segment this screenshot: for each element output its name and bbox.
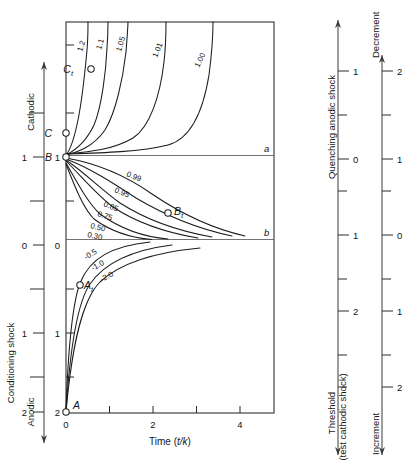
contour-curves-lower — [66, 242, 200, 412]
right1-tick-label-neg2: 2 — [353, 306, 358, 317]
contour-label--0.5: -0.5 — [82, 247, 99, 262]
increment-label: Increment — [370, 412, 381, 455]
contour-label-0.95: 0.95 — [113, 186, 131, 200]
reference-line-labels: a b — [264, 143, 269, 238]
right2-tick-label-2: 2 — [397, 66, 402, 77]
marker-point-Ct — [88, 66, 94, 72]
right2-tick-label-neg1: 1 — [397, 306, 402, 317]
contour-label--1.0: -1.0 — [90, 258, 107, 273]
contour-label-1.2: 1.2 — [75, 40, 87, 53]
marker-point-B — [63, 154, 69, 160]
x-axis-ticks — [66, 406, 240, 413]
reference-label-a: a — [264, 143, 269, 154]
y-inner-tick-label-0: 0 — [55, 240, 60, 251]
contour-label-1.01: 1.01 — [151, 41, 165, 58]
conditioning-tick-label-neg1: 1 — [22, 328, 27, 339]
point-label-C: C — [44, 127, 52, 139]
conditioning-shock-axis-title: Conditioning shock — [5, 323, 16, 404]
decrement-increment-axis: 2 1 0 1 2 — [379, 55, 402, 455]
threshold-label-line1: Threshold — [326, 392, 337, 434]
right2-tick-label-1: 1 — [397, 154, 402, 165]
contour-curve-0.85 — [66, 160, 212, 237]
x-axis-title: Time (t/k) — [149, 436, 191, 447]
figure-canvas: 0 2 4 Time (t/k) 1 0 1 2 — [0, 0, 410, 473]
data-point-labels: A B C At Bt Ct — [44, 63, 184, 411]
right1-tick-label-1: 1 — [353, 66, 358, 77]
contour-curve--1.0 — [66, 245, 172, 412]
data-point-markers — [63, 66, 171, 415]
contour-curves-upper — [66, 22, 213, 155]
contour-curve--2.0 — [66, 248, 200, 412]
threshold-label-line2: (test cathodic shock) — [337, 373, 348, 460]
point-label-At-main: A — [83, 279, 91, 291]
contour-label-0.99: 0.99 — [125, 170, 142, 184]
x-tick-label-4: 4 — [237, 419, 242, 430]
y-inner-tick-label-1: 1 — [55, 152, 60, 163]
reference-label-b: b — [264, 227, 269, 238]
y-inner-tick-label-neg1: 1 — [55, 328, 60, 339]
x-tick-label-2: 2 — [150, 419, 155, 430]
point-label-A: A — [72, 399, 80, 411]
right2-tick-label-neg2: 2 — [397, 382, 402, 393]
point-label-Bt-sub: t — [181, 211, 184, 220]
contour-labels-mid: 0.99 0.95 0.85 0.75 0.50 0.30 — [87, 170, 143, 243]
point-label-Bt: Bt — [174, 205, 184, 220]
point-label-At-sub: t — [91, 285, 94, 294]
quenching-anodic-shock-label: Quenching anodic shock — [326, 75, 337, 179]
marker-point-At — [77, 282, 83, 288]
x-axis-tick-labels: 0 2 4 — [63, 419, 242, 430]
right1-tick-label-neg1: 1 — [353, 230, 358, 241]
marker-point-Bt — [165, 210, 171, 216]
contour-label-1.05: 1.05 — [114, 35, 127, 53]
right2-tick-label-0: 0 — [397, 230, 402, 241]
contour-label-1.00: 1.00 — [193, 51, 208, 69]
y-axis-inner-ticks — [66, 45, 74, 377]
x-tick-label-0: 0 — [63, 419, 68, 430]
y-inner-tick-label-neg2: 2 — [55, 407, 60, 418]
point-label-B: B — [45, 151, 52, 163]
marker-point-A — [63, 409, 69, 415]
decrement-label: Decrement — [370, 11, 381, 58]
contour-labels-upper: 1.2 1.1 1.05 1.01 1.00 — [75, 35, 207, 69]
contour-label-0.30: 0.30 — [87, 230, 104, 242]
right1-tick-label-0: 0 — [353, 154, 358, 165]
conditioning-tick-label-0: 0 — [22, 240, 27, 251]
point-label-Bt-main: B — [174, 205, 181, 217]
anodic-axis-label: Anodic — [25, 397, 36, 426]
point-label-Ct: Ct — [63, 63, 74, 78]
point-label-Ct-sub: t — [71, 69, 74, 78]
y-axis-inner-tick-labels: 1 0 1 2 — [55, 152, 60, 418]
contour-figure: 0 2 4 Time (t/k) 1 0 1 2 — [0, 0, 410, 473]
contour-label-1.1: 1.1 — [94, 38, 106, 51]
marker-point-C — [63, 130, 69, 136]
conditioning-tick-label-1: 1 — [22, 152, 27, 163]
cathodic-axis-label: Cathodic — [25, 93, 36, 131]
